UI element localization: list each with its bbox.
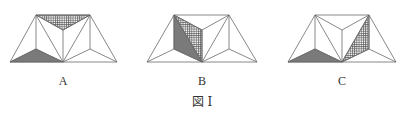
- figure-a-label: A: [59, 74, 68, 88]
- figure-c: [288, 15, 396, 62]
- figure-c-gray-region: [288, 49, 342, 62]
- figure-1-diagram: A B C: [0, 0, 404, 116]
- figure-b-label: B: [198, 74, 206, 88]
- figure-c-label: C: [338, 74, 346, 88]
- figure-a-hatched-region: [36, 15, 90, 30]
- figure-caption: 図 I: [192, 95, 213, 109]
- figure-b: [147, 15, 257, 62]
- figure-a: [10, 15, 117, 62]
- figure-a-gray-region: [10, 49, 63, 62]
